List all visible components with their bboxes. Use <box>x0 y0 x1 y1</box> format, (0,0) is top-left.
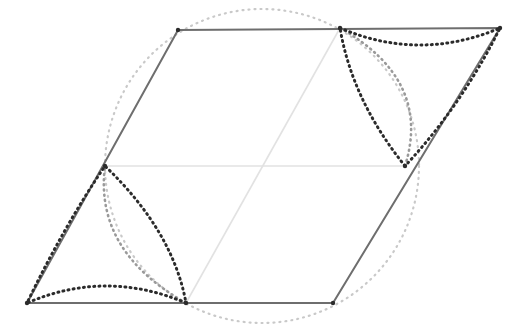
vertex-dot <box>184 301 188 305</box>
vertex-dot <box>331 301 335 305</box>
vertex-dot <box>25 301 29 305</box>
figure-background <box>0 0 511 335</box>
vertex-dot <box>176 28 180 32</box>
vertex-dot <box>103 164 107 168</box>
vertex-dot <box>498 26 502 30</box>
vertex-dot <box>403 164 407 168</box>
geometry-figure <box>0 0 511 335</box>
vertex-dot <box>338 26 342 30</box>
